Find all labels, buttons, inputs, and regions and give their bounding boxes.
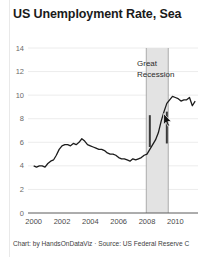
unemployment-line-series <box>34 96 196 167</box>
y-tick-label: 14 <box>8 44 24 53</box>
y-tick-label: 6 <box>8 138 24 147</box>
y-tick-label: 12 <box>8 67 24 76</box>
recession-label-line1: Great <box>137 59 174 70</box>
y-tick-label: 2 <box>8 185 24 194</box>
y-tick-label: 10 <box>8 91 24 100</box>
x-tick-label: 2006 <box>106 217 132 226</box>
y-tick-label: 8 <box>8 114 24 123</box>
recession-annotation-label: Great Recession <box>137 59 174 80</box>
mouse-pointer-icon <box>163 113 172 127</box>
series-line <box>34 96 196 167</box>
y-tick-label: 4 <box>8 161 24 170</box>
x-tick-label: 2000 <box>21 217 47 226</box>
x-tick-label: 2008 <box>134 217 160 226</box>
chart-page: US Unemployment Rate, Sea 02468101214 20… <box>0 0 200 257</box>
recession-label-line2: Recession <box>137 70 174 81</box>
footer-credit: Chart: by HandsOnDataViz · Source: US Fe… <box>13 240 189 247</box>
x-tick-label: 2010 <box>162 217 188 226</box>
x-tick-label: 2004 <box>77 217 103 226</box>
x-tick-label: 2002 <box>49 217 75 226</box>
